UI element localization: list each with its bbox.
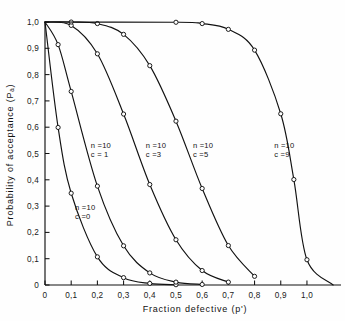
series-label-line2: c =3 [146, 150, 161, 159]
data-point-marker [226, 27, 230, 31]
oc-curve-figure: 00,10,20,30,40,50,60,70,80,91,0 00,10,20… [0, 0, 345, 321]
data-point-marker [200, 21, 204, 25]
data-point-marker [121, 112, 125, 116]
x-tick-label: 0,6 [196, 291, 208, 300]
series-label-line1: n =10 [91, 141, 111, 150]
y-tick-label: 0,9 [27, 44, 39, 53]
data-point-marker [148, 64, 152, 68]
x-tick-label: 0 [43, 291, 48, 300]
data-point-marker [95, 255, 99, 259]
x-tick-label: 0,8 [249, 291, 261, 300]
x-tick-label: 0,1 [65, 291, 77, 300]
data-point-marker [95, 52, 99, 56]
y-tick-label: 0,8 [27, 71, 39, 80]
y-tick-label: 0,1 [27, 255, 39, 264]
data-point-marker [69, 89, 73, 93]
y-tick-label: 0,5 [27, 150, 39, 159]
data-point-marker [226, 243, 230, 247]
y-tick-label: 1,0 [27, 18, 39, 27]
data-point-marker [252, 274, 256, 278]
y-axis-title: Probability of acceptance (Pₐ) [5, 84, 15, 226]
data-series-layer [45, 20, 333, 287]
series-label-line2: c =0 [75, 212, 90, 221]
y-tick-label: 0,3 [27, 202, 39, 211]
x-tick-label: 0,3 [118, 291, 130, 300]
y-tick-label: 0,4 [27, 176, 39, 185]
data-point-marker [121, 276, 125, 280]
data-point-marker [56, 43, 60, 47]
oc-curve-chart: 00,10,20,30,40,50,60,70,80,91,0 00,10,20… [0, 0, 345, 321]
data-point-marker [174, 20, 178, 24]
y-axis-ticks [45, 22, 50, 285]
series-label-line1: n =10 [274, 141, 294, 150]
x-tick-label: 0,7 [222, 291, 234, 300]
x-tick-label: 0,2 [91, 291, 103, 300]
data-point-marker [305, 258, 309, 262]
x-tick-label: 1,0 [301, 291, 313, 300]
series-label-line1: n =10 [193, 141, 213, 150]
series-annotation-labels: n =10c =0n =10c = 1n =10c =3n =10c =5n =… [75, 141, 294, 221]
series-label-line1: n =10 [75, 203, 95, 212]
series-label-line1: n =10 [146, 141, 166, 150]
x-tick-label: 0,5 [170, 291, 182, 300]
data-point-marker [226, 280, 230, 284]
data-point-marker [121, 244, 125, 248]
data-point-marker [121, 32, 125, 36]
y-tick-label: 0 [34, 281, 39, 290]
data-point-marker [174, 238, 178, 242]
data-point-marker [200, 268, 204, 272]
data-point-marker [148, 182, 152, 186]
y-tick-label: 0,2 [27, 228, 39, 237]
x-axis-tick-labels: 00,10,20,30,40,50,60,70,80,91,0 [43, 291, 314, 300]
series-4 [45, 20, 333, 285]
series-label-line2: c = 1 [91, 150, 109, 159]
data-point-marker [95, 184, 99, 188]
data-point-marker [200, 282, 204, 286]
data-point-marker [174, 119, 178, 123]
x-tick-label: 0,4 [144, 291, 156, 300]
y-axis-tick-labels: 00,10,20,30,40,50,60,70,80,91,0 [27, 18, 39, 290]
data-point-marker [174, 280, 178, 284]
y-tick-label: 0,6 [27, 123, 39, 132]
data-point-marker [148, 281, 152, 285]
data-point-marker [56, 125, 60, 129]
data-point-marker [292, 177, 296, 181]
data-point-marker [279, 112, 283, 116]
data-point-marker [69, 191, 73, 195]
data-point-marker [200, 186, 204, 190]
series-label-line2: c =9 [274, 150, 289, 159]
data-point-marker [252, 48, 256, 52]
series-label-line2: c =5 [193, 150, 208, 159]
data-point-marker [148, 271, 152, 275]
x-tick-label: 0,9 [275, 291, 287, 300]
figure-caption-fragment [0, 312, 345, 321]
y-tick-label: 0,7 [27, 97, 39, 106]
